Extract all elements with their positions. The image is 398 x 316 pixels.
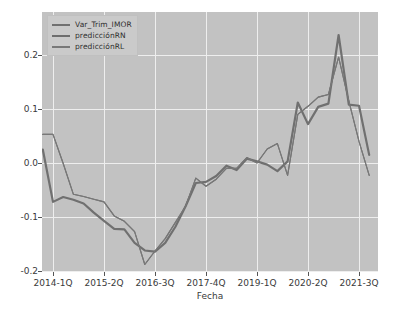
x-tick-mark bbox=[104, 272, 105, 276]
chart-figure: 0.20.10.0-0.1-0.2 2014-1Q2015-2Q2016-3Q2… bbox=[0, 0, 398, 316]
y-tick-label: -0.1 bbox=[4, 212, 38, 222]
legend-line-swatch-icon bbox=[52, 24, 70, 26]
y-tick-label: 0.2 bbox=[4, 50, 38, 60]
x-tick-mark bbox=[155, 272, 156, 276]
series-line-2 bbox=[43, 57, 369, 264]
legend-line-swatch-icon bbox=[52, 46, 70, 48]
y-tick-mark bbox=[38, 55, 42, 56]
x-tick-mark bbox=[359, 272, 360, 276]
legend-label: predicciónRN bbox=[75, 31, 126, 40]
legend-item: predicciónRL bbox=[52, 41, 132, 52]
y-tick-label: 0.1 bbox=[4, 104, 38, 114]
x-tick-mark bbox=[53, 272, 54, 276]
chart-legend: Var_Trim_IMORpredicciónRNpredicciónRL bbox=[47, 15, 138, 56]
y-tick-label: -0.2 bbox=[4, 266, 38, 276]
series-line-0 bbox=[43, 35, 369, 252]
legend-line-swatch-icon bbox=[52, 35, 70, 37]
y-tick-mark bbox=[38, 109, 42, 110]
x-tick-mark bbox=[308, 272, 309, 276]
y-tick-mark bbox=[38, 217, 42, 218]
legend-label: predicciónRL bbox=[75, 42, 124, 51]
y-tick-label: 0.0 bbox=[4, 158, 38, 168]
legend-label: Var_Trim_IMOR bbox=[75, 20, 132, 29]
x-tick-label: 2021-3Q bbox=[340, 278, 379, 289]
x-tick-label: 2016-3Q bbox=[136, 278, 175, 289]
x-tick-label: 2015-2Q bbox=[85, 278, 124, 289]
y-tick-mark bbox=[38, 163, 42, 164]
legend-item: predicciónRN bbox=[52, 30, 132, 41]
x-axis-title: Fecha bbox=[42, 291, 378, 301]
y-axis-tick-labels: 0.20.10.0-0.1-0.2 bbox=[0, 0, 38, 316]
x-tick-label: 2014-1Q bbox=[34, 278, 73, 289]
x-tick-label: 2019-1Q bbox=[238, 278, 277, 289]
y-tick-mark bbox=[38, 271, 42, 272]
series-line-1 bbox=[43, 57, 369, 264]
x-tick-label: 2020-2Q bbox=[289, 278, 328, 289]
x-tick-mark bbox=[206, 272, 207, 276]
x-tick-label: 2017-4Q bbox=[187, 278, 226, 289]
legend-item: Var_Trim_IMOR bbox=[52, 19, 132, 30]
x-tick-mark bbox=[257, 272, 258, 276]
